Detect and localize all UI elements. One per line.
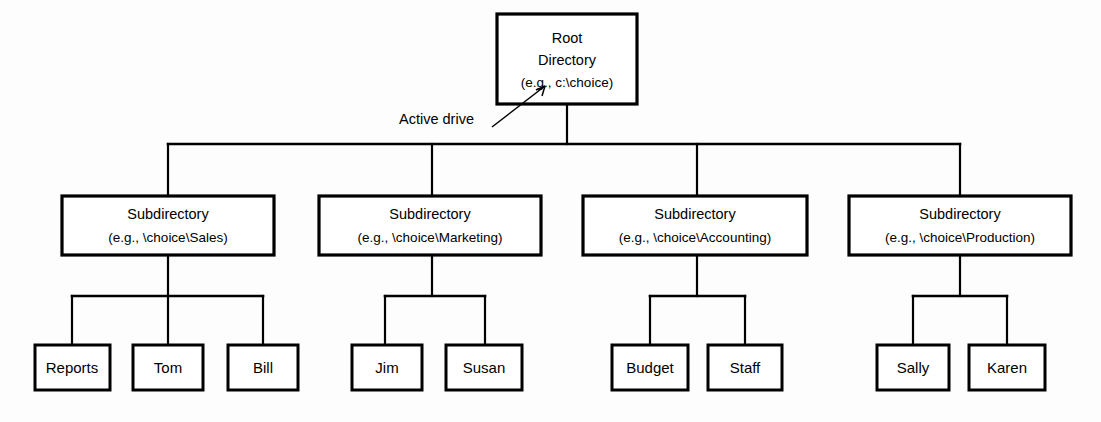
leaf-node-reports: Reports bbox=[35, 345, 110, 390]
leaf-node-staff: Staff bbox=[708, 345, 782, 390]
leaf-label-sally: Sally bbox=[897, 359, 930, 376]
subdirectory-node-production: Subdirectory (e.g., \choice\Production) bbox=[849, 196, 1071, 255]
subdirectory-3-label-line1: Subdirectory bbox=[654, 206, 736, 222]
leaf-node-susan: Susan bbox=[446, 345, 522, 390]
active-drive-label: Active drive bbox=[399, 111, 474, 127]
connector-subdir-1-children bbox=[72, 255, 263, 345]
root-label-line3: (e.g., c:\choice) bbox=[521, 75, 613, 90]
leaf-label-jim: Jim bbox=[375, 359, 398, 376]
leaf-node-karen: Karen bbox=[969, 345, 1045, 390]
leaf-node-budget: Budget bbox=[612, 345, 688, 390]
leaf-node-jim: Jim bbox=[352, 345, 422, 390]
leaf-label-budget: Budget bbox=[626, 359, 674, 376]
root-directory-node: Root Directory (e.g., c:\choice) bbox=[497, 14, 637, 104]
leaf-node-tom: Tom bbox=[133, 345, 203, 390]
leaf-node-bill: Bill bbox=[228, 345, 298, 390]
leaf-label-bill: Bill bbox=[253, 359, 273, 376]
subdirectory-3-label-line2: (e.g., \choice\Accounting) bbox=[619, 230, 771, 245]
connector-subdir-2-children bbox=[385, 255, 485, 345]
connector-subdir-4-children bbox=[913, 255, 1007, 345]
subdirectory-node-accounting: Subdirectory (e.g., \choice\Accounting) bbox=[583, 196, 807, 255]
subdirectory-2-label-line1: Subdirectory bbox=[389, 206, 471, 222]
subdirectory-node-marketing: Subdirectory (e.g., \choice\Marketing) bbox=[319, 196, 541, 255]
leaf-label-tom: Tom bbox=[154, 359, 182, 376]
subdirectory-4-label-line1: Subdirectory bbox=[919, 206, 1001, 222]
leaf-label-reports: Reports bbox=[46, 359, 99, 376]
subdirectory-4-label-line2: (e.g., \choice\Production) bbox=[885, 230, 1035, 245]
tree-canvas: Root Directory (e.g., c:\choice) Active … bbox=[0, 0, 1101, 422]
subdirectory-1-label-line1: Subdirectory bbox=[127, 206, 209, 222]
leaf-node-sally: Sally bbox=[877, 345, 949, 390]
subdirectory-2-label-line2: (e.g., \choice\Marketing) bbox=[358, 230, 503, 245]
leaf-label-karen: Karen bbox=[987, 359, 1027, 376]
leaf-label-staff: Staff bbox=[730, 359, 761, 376]
subdirectory-node-sales: Subdirectory (e.g., \choice\Sales) bbox=[62, 196, 274, 255]
connector-subdir-3-children bbox=[650, 255, 745, 345]
leaf-label-susan: Susan bbox=[463, 359, 506, 376]
root-label-line2: Directory bbox=[538, 52, 597, 68]
directory-tree-diagram: Root Directory (e.g., c:\choice) Active … bbox=[0, 0, 1101, 422]
root-label-line1: Root bbox=[552, 30, 583, 46]
subdirectory-1-label-line2: (e.g., \choice\Sales) bbox=[108, 230, 227, 245]
